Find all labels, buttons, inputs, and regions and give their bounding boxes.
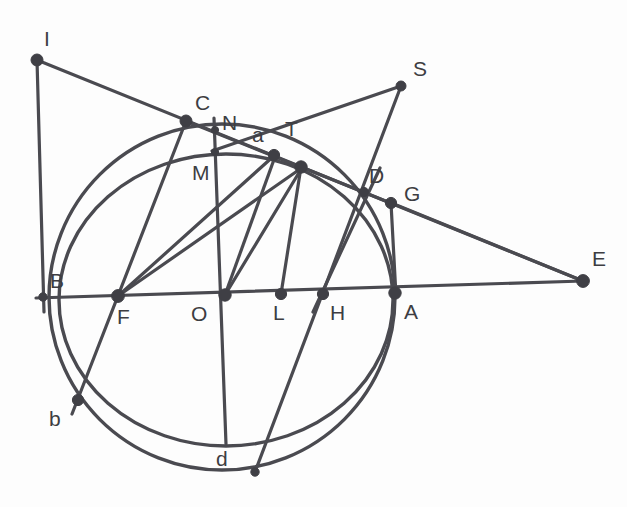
point-C bbox=[180, 115, 192, 127]
label-b: b bbox=[49, 408, 61, 429]
point-a bbox=[268, 149, 279, 160]
point-F bbox=[112, 290, 125, 303]
segment-I-vertical bbox=[37, 60, 44, 312]
point-A bbox=[389, 287, 401, 299]
geometry-diagram: I C S N a T M D G E B F O L H A b d bbox=[0, 0, 627, 507]
label-E: E bbox=[592, 248, 606, 269]
label-F: F bbox=[117, 306, 130, 327]
point-H bbox=[317, 288, 328, 299]
segment-C-to-d-foot bbox=[214, 118, 226, 444]
label-M: M bbox=[192, 162, 210, 183]
point-S bbox=[396, 81, 406, 91]
segment-G-to-E bbox=[389, 202, 583, 281]
point-T bbox=[295, 161, 307, 173]
point-B bbox=[39, 293, 47, 301]
point-d bbox=[251, 468, 259, 476]
label-O: O bbox=[191, 303, 207, 324]
label-D: D bbox=[369, 165, 384, 186]
label-A: A bbox=[404, 301, 418, 322]
segment-S-to-M bbox=[212, 86, 401, 151]
point-b bbox=[72, 394, 83, 405]
label-L: L bbox=[273, 302, 285, 323]
label-B: B bbox=[50, 270, 64, 291]
label-T: T bbox=[285, 118, 298, 139]
point-M bbox=[211, 148, 218, 155]
label-N: N bbox=[222, 112, 237, 133]
geometry-canvas bbox=[0, 0, 627, 507]
segment-F-to-T bbox=[118, 167, 303, 296]
label-H: H bbox=[330, 302, 345, 323]
point-N bbox=[211, 126, 218, 133]
point-I bbox=[31, 54, 43, 66]
point-D bbox=[359, 187, 368, 196]
label-G: G bbox=[404, 183, 420, 204]
point-O bbox=[219, 289, 231, 301]
point-E bbox=[577, 275, 590, 288]
label-I: I bbox=[44, 28, 50, 49]
point-G bbox=[385, 197, 396, 208]
label-d: d bbox=[216, 448, 228, 469]
segment-C-to-b bbox=[72, 121, 186, 414]
label-a: a bbox=[252, 124, 264, 145]
point-L bbox=[275, 288, 286, 299]
label-C: C bbox=[195, 92, 210, 113]
label-S: S bbox=[413, 58, 427, 79]
